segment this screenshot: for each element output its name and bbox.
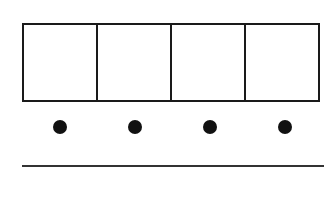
box-cell-1 — [24, 25, 98, 100]
answer-line — [22, 165, 324, 167]
dot-2 — [128, 120, 142, 134]
box-cell-2 — [98, 25, 172, 100]
box-strip — [22, 23, 320, 102]
box-cell-4 — [246, 25, 318, 100]
dot-1 — [53, 120, 67, 134]
dot-4 — [278, 120, 292, 134]
dot-3 — [203, 120, 217, 134]
box-cell-3 — [172, 25, 246, 100]
